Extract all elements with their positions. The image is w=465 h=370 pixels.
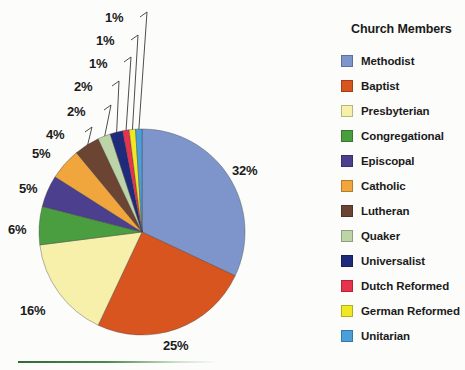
legend-swatch-icon: [341, 205, 353, 217]
legend-item-congregational[interactable]: Congregational: [336, 123, 465, 148]
pct-label-dutch-reformed: 1%: [89, 56, 107, 71]
legend-item-label: Universalist: [361, 255, 425, 267]
legend-swatch-icon: [341, 330, 353, 342]
legend-item-label: German Reformed: [361, 305, 460, 317]
legend-swatch-icon: [341, 155, 353, 167]
pct-label-lutheran: 4%: [46, 127, 64, 142]
legend-item-label: Congregational: [361, 130, 444, 142]
legend-swatch-icon: [341, 55, 353, 67]
leader-line: [112, 81, 119, 133]
pct-label-presbyterian: 16%: [20, 303, 45, 318]
pct-label-unitarian: 1%: [105, 10, 123, 25]
legend-item-universalist[interactable]: Universalist: [336, 248, 465, 273]
legend-item-quaker[interactable]: Quaker: [336, 223, 465, 248]
pct-label-episcopal: 5%: [19, 181, 37, 196]
legend-item-baptist[interactable]: Baptist: [336, 73, 465, 98]
legend-item-catholic[interactable]: Catholic: [336, 173, 465, 198]
legend-swatch-icon: [341, 255, 353, 267]
leader-line: [104, 105, 111, 137]
pct-label-quaker: 2%: [67, 104, 85, 119]
legend-swatch-icon: [341, 180, 353, 192]
legend-swatch-icon: [341, 305, 353, 317]
legend-item-label: Baptist: [361, 80, 399, 92]
legend-item-label: Methodist: [361, 55, 414, 67]
legend-item-episcopal[interactable]: Episcopal: [336, 148, 465, 173]
legend-item-presbyterian[interactable]: Presbyterian: [336, 98, 465, 123]
legend: Church Members MethodistBaptistPresbyter…: [336, 22, 465, 342]
legend-swatch-icon: [341, 280, 353, 292]
legend-item-german-reformed[interactable]: German Reformed: [336, 298, 465, 323]
leader-line-group: [85, 12, 147, 146]
legend-item-label: Episcopal: [361, 155, 414, 167]
legend-swatch-icon: [341, 80, 353, 92]
pie-slice-group: [39, 129, 245, 335]
leader-line: [139, 12, 147, 130]
pct-label-german-reformed: 1%: [96, 33, 114, 48]
legend-item-label: Quaker: [361, 230, 400, 242]
legend-title: Church Members: [351, 22, 465, 36]
legend-item-methodist[interactable]: Methodist: [336, 48, 465, 73]
legend-swatch-icon: [341, 130, 353, 142]
pct-label-baptist: 25%: [163, 338, 188, 353]
legend-item-unitarian[interactable]: Unitarian: [336, 323, 465, 348]
legend-item-lutheran[interactable]: Lutheran: [336, 198, 465, 223]
pct-label-methodist: 32%: [232, 163, 257, 178]
pct-label-universalist: 2%: [74, 79, 92, 94]
leader-line: [124, 57, 131, 131]
legend-item-label: Presbyterian: [361, 105, 429, 117]
legend-item-dutch-reformed[interactable]: Dutch Reformed: [336, 273, 465, 298]
legend-swatch-icon: [341, 105, 353, 117]
legend-item-label: Catholic: [361, 180, 406, 192]
pie-plot-area: 32%25%16%6%5%5%4%2%2%1%1%1%: [0, 0, 330, 370]
leader-line: [131, 35, 138, 131]
legend-item-label: Dutch Reformed: [361, 280, 449, 292]
legend-item-label: Lutheran: [361, 205, 409, 217]
pie-svg: [0, 0, 330, 370]
green-divider: [18, 361, 218, 363]
legend-item-label: Unitarian: [361, 330, 410, 342]
legend-swatch-icon: [341, 230, 353, 242]
pie-chart-figure: 32%25%16%6%5%5%4%2%2%1%1%1% Church Membe…: [0, 0, 465, 370]
pct-label-catholic: 5%: [32, 146, 50, 161]
legend-rows: MethodistBaptistPresbyterianCongregation…: [336, 48, 465, 348]
pct-label-congregational: 6%: [8, 222, 26, 237]
